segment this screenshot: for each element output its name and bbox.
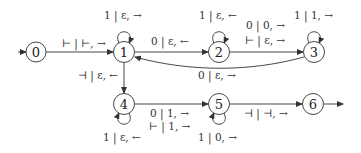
state-6: 6 [303,94,324,115]
label-edge-0-1: ⊢ | ⊢, → [62,37,106,51]
svg-text:0: 0 [32,45,40,60]
state-4: 4 [114,94,135,115]
label-edge-5-6: ⊣ | ⊣, → [244,107,288,121]
label-edge-1-4: ⊣ | ε, ← [78,69,118,83]
state-2: 2 [209,42,230,63]
state-5: 5 [209,94,230,115]
label-loop-3: 1 | 1, → [294,9,333,23]
label-loop-4: 1 | ε, ← [103,131,141,145]
svg-text:3: 3 [310,45,318,60]
svg-text:1: 1 [120,45,128,60]
state-3: 3 [304,42,325,63]
label-loop-5: 1 | 0, → [198,131,237,145]
svg-text:4: 4 [120,97,128,112]
label-edge-2-3-b: ⊢ | ε, → [245,34,285,48]
label-loop-1: 1 | ε, → [104,9,142,23]
label-loop-2: 1 | ε, ← [199,9,237,23]
state-0: 0 [26,42,46,62]
state-1: 1 [114,42,135,63]
label-edge-3-1: 0 | ε, → [198,69,236,83]
label-edge-2-3-a: 0 | 0, → [246,19,285,33]
svg-text:6: 6 [309,97,317,112]
label-edge-4-5-b: ⊢ | 1, → [149,120,191,134]
state-diagram: 0 1 2 3 4 5 6 ⊢ | ⊢, → 1 | ε, → 0 | ε, ←… [0,0,361,153]
diagram-svg: 0 1 2 3 4 5 6 ⊢ | ⊢, → 1 | ε, → 0 | ε, ←… [0,0,361,153]
svg-text:5: 5 [215,97,223,112]
svg-text:2: 2 [215,45,223,60]
label-edge-4-5-a: 0 | 1, → [150,107,189,121]
label-edge-1-2: 0 | ε, ← [151,35,189,49]
